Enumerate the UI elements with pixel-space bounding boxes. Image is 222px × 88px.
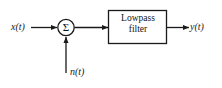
filter-block-label: Lowpass filter — [109, 13, 167, 35]
filter-block-label-line-2: filter — [109, 24, 167, 35]
sigma-icon: Σ — [58, 19, 74, 35]
input-signal-label: x(t) — [11, 22, 25, 32]
output-signal-label: y(t) — [190, 22, 204, 32]
filter-block-label-line-1: Lowpass — [109, 13, 167, 24]
block-diagram-canvas: Σ Lowpass filter x(t) n(t) y(t) — [0, 0, 222, 88]
noise-signal-label: n(t) — [70, 67, 84, 77]
